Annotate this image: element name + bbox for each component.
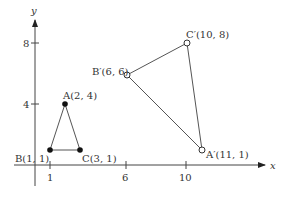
svg-text:6: 6	[122, 172, 128, 183]
y-tick-8: 8	[23, 38, 39, 49]
point-c	[77, 147, 83, 153]
y-axis-label: y	[30, 5, 37, 16]
label-a: A(2, 4)	[62, 90, 97, 101]
label-c-prime: C′(10, 8)	[186, 29, 229, 40]
point-c-prime	[184, 40, 190, 46]
triangle-abc	[50, 104, 80, 150]
label-a-prime: A′(11, 1)	[205, 149, 249, 160]
x-tick-6: 6	[122, 161, 128, 183]
coordinate-plane: x y 1 6 10 4 8 A(2, 4) B(1, 1) C(3, 1) A…	[0, 0, 286, 197]
point-a	[62, 101, 68, 107]
x-tick-1: 1	[47, 161, 53, 183]
label-b: B(1, 1)	[15, 153, 49, 164]
y-tick-4: 4	[23, 99, 39, 110]
svg-text:1: 1	[47, 172, 53, 183]
point-a-prime	[199, 147, 205, 153]
svg-text:8: 8	[23, 38, 29, 49]
x-tick-10: 10	[179, 161, 192, 183]
x-axis-label: x	[270, 160, 276, 171]
label-b-prime: B′(6, 6)	[92, 66, 129, 77]
point-b	[47, 147, 53, 153]
triangle-a-prime-b-prime-c-prime	[127, 43, 202, 150]
svg-text:4: 4	[23, 99, 29, 110]
label-c: C(3, 1)	[82, 153, 117, 164]
svg-text:10: 10	[179, 172, 192, 183]
